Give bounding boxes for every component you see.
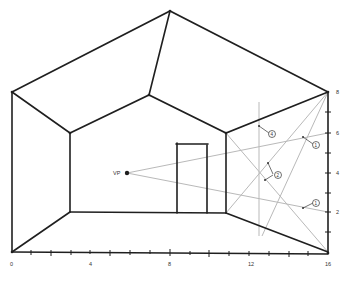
callout-1: 4 bbox=[258, 125, 276, 138]
x-axis-labels: 0 4 8 12 16 bbox=[10, 261, 331, 267]
callout-4: 1 bbox=[302, 200, 320, 210]
perspective-room-diagram: VP 0 4 8 12 16 2 4 6 8 bbox=[0, 0, 347, 291]
svg-text:8: 8 bbox=[168, 261, 171, 267]
doorway bbox=[176, 143, 208, 213]
svg-text:4: 4 bbox=[89, 261, 92, 267]
svg-text:6: 6 bbox=[336, 130, 339, 136]
room-outline bbox=[12, 11, 328, 254]
construction-lines bbox=[127, 92, 328, 252]
svg-text:2: 2 bbox=[336, 209, 339, 215]
svg-text:16: 16 bbox=[325, 261, 331, 267]
svg-text:0: 0 bbox=[10, 261, 13, 267]
y-axis-labels: 2 4 6 8 bbox=[336, 89, 339, 215]
vanishing-point: VP bbox=[113, 170, 129, 176]
svg-text:4: 4 bbox=[336, 170, 339, 176]
svg-text:8: 8 bbox=[336, 89, 339, 95]
corner-points bbox=[11, 10, 330, 255]
vp-label: VP bbox=[113, 170, 121, 176]
svg-text:12: 12 bbox=[248, 261, 254, 267]
